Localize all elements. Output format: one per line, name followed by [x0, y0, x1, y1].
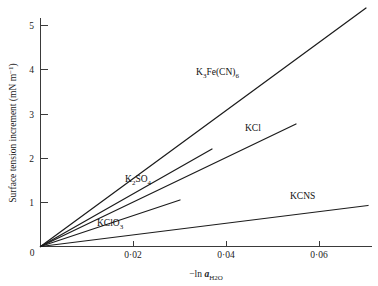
series-label-k2so4: K2SO4 [125, 174, 152, 187]
series-label-kcns-text: KCNS [290, 191, 315, 201]
axis-group [41, 18, 373, 247]
series-label-group: K3Fe(CN)6 KCl K2SO4 KClO3 KCNS [97, 67, 315, 231]
y-tick-label-3: 3 [29, 110, 34, 120]
x-tick-label-004: 0·04 [217, 250, 235, 260]
x-tick-group [134, 241, 320, 247]
series-label-kclo3: KClO3 [97, 218, 124, 231]
y-tick-label-group: 5 4 3 2 1 [29, 21, 34, 208]
chart-figure: 5 4 3 2 1 0 0·02 0·04 0·06 Surface tensi… [0, 0, 378, 286]
x-tick-label-group: 0 0·02 0·04 0·06 [30, 248, 328, 260]
series-label-k3fecn6-part2: Fe(CN) [206, 67, 235, 78]
y-tick-label-5: 5 [29, 21, 34, 31]
y-tick-label-2: 2 [29, 154, 34, 164]
series-label-k3fecn6-sub2: 6 [235, 72, 239, 80]
series-line-k2so4 [41, 149, 213, 247]
series-line-kcl [41, 124, 297, 247]
series-label-k3fecn6: K3Fe(CN)6 [196, 67, 239, 80]
series-label-kcl: KCl [245, 123, 261, 133]
series-label-kclo3-part1: KClO [97, 218, 120, 228]
y-axis-title-main: Surface tension increment (mN m [8, 73, 19, 202]
series-label-kcns: KCNS [290, 191, 315, 201]
series-line-group [41, 8, 369, 247]
y-axis-title: Surface tension increment (mN m−1) [7, 63, 20, 202]
x-tick-label-006: 0·06 [310, 250, 328, 260]
series-line-k3fecn6 [41, 8, 367, 247]
x-axis-title: −ln aH2O [189, 269, 223, 282]
y-axis-title-close: ) [8, 63, 19, 66]
series-label-k2so4-sub2: 4 [148, 179, 152, 187]
svg-text:−ln aH2O: −ln aH2O [189, 269, 223, 282]
y-tick-label-4: 4 [29, 65, 34, 75]
chart-plot-area: 5 4 3 2 1 0 0·02 0·04 0·06 Surface tensi… [0, 0, 378, 286]
x-tick-label-002: 0·02 [124, 250, 142, 260]
series-label-k2so4-part2: SO [135, 174, 147, 184]
x-axis-title-sub-o: O [218, 274, 223, 282]
y-tick-label-1: 1 [29, 198, 34, 208]
series-label-kcl-text: KCl [245, 123, 261, 133]
svg-text:Surface tension increment (mN: Surface tension increment (mN m−1) [7, 63, 20, 202]
x-tick-label-0: 0 [30, 248, 35, 258]
y-tick-group [41, 26, 48, 203]
series-line-kcns [41, 206, 369, 247]
x-axis-title-minus-ln: −ln [189, 269, 204, 279]
series-label-kclo3-sub1: 3 [120, 223, 124, 231]
